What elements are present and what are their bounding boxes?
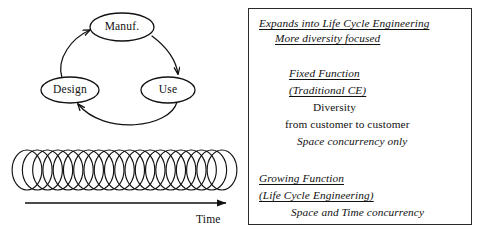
text-panel: Expands into Life Cycle EngineeringMore … [248,8,472,225]
panel-text-line: Growing Function [259,172,344,184]
edge-manuf-to-use [152,36,178,74]
panel-text-line: Space and Time concurrency [291,206,424,218]
panel-text-line: Fixed Function [289,67,360,79]
panel-text-line: from customer to customer [285,118,410,130]
time-axis-label: Time [196,213,221,225]
edge-use-to-design [78,102,177,125]
panel-text-line: (Life Cycle Engineering) [259,189,374,201]
node-label-use: Use [141,84,195,96]
node-label-design: Design [41,84,99,96]
edge-design-to-manuf [61,30,90,78]
panel-text-line: Expands into Life Cycle Engineering [259,17,429,29]
panel-text-line: Diversity [313,101,356,113]
node-label-manuf: Manuf. [90,21,154,33]
panel-text-line: (Traditional CE) [289,84,366,96]
spring-coil [12,150,237,190]
panel-text-line: Space concurrency only [297,135,407,147]
panel-text-line: More diversity focused [275,32,380,44]
figure-root: Manuf. Design Use Time Expands into Life… [0,0,482,248]
